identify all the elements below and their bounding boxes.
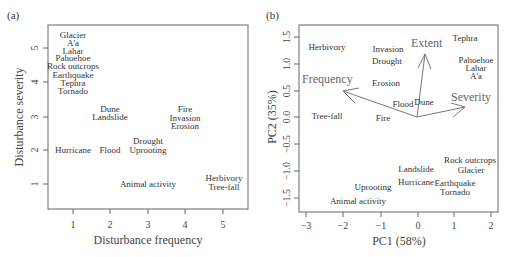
panel-a-xtick-5: 5	[221, 219, 226, 230]
label-fire: Fire	[376, 113, 391, 123]
label-uprooting: Uprooting	[355, 182, 392, 192]
panel-b-labels: Herbivory Invasion Drought Erosion Tree-…	[309, 33, 497, 206]
label-invasion: Invasion	[373, 44, 404, 54]
panel-a-ytick-4: 4	[29, 80, 40, 85]
label-glacier: Glacier	[458, 165, 484, 175]
panel-a-xtick-2: 2	[108, 219, 113, 230]
panel-b-tag: (b)	[266, 9, 279, 22]
panel-a-ytick-5: 5	[29, 46, 40, 51]
label-flood: Flood	[99, 145, 121, 155]
label-hurricane: Hurricane	[55, 145, 91, 155]
vector-label-extent: Extent	[411, 36, 443, 50]
label-animal-activity: Animal activity	[120, 179, 177, 189]
label-herbivory: Herbivory	[309, 42, 346, 52]
panel-b: (b) −1.5 −1.0 −0.5 0.0 0.5 1.0 1.5 PC2 (…	[265, 9, 498, 248]
panel-b-ytick-0.5: 0.5	[281, 85, 292, 98]
label-drought: Drought	[372, 56, 402, 66]
vector-extent-line	[417, 54, 425, 117]
vector-label-frequency: Frequency	[302, 72, 353, 86]
label-tree-fall: Tree-fall	[311, 111, 343, 121]
panel-b-x-ticks	[306, 212, 491, 217]
figure: (a) 1 2 3 4 5 Disturbance severity 1 2 3…	[0, 0, 511, 257]
label-tephra: Tephra	[453, 33, 478, 43]
label-landslide: Landslide	[398, 164, 434, 174]
label-tree-fall: Tree-fall	[208, 182, 240, 192]
label-erosion: Erosion	[171, 121, 199, 131]
panel-a-ytick-2: 2	[29, 148, 40, 153]
vector-severity-line	[417, 107, 465, 117]
panel-b-ytick-0.0: 0.0	[281, 111, 292, 124]
panel-b-xtick-m2: −2	[338, 220, 349, 231]
panel-b-xtick-m3: −3	[301, 220, 312, 231]
panel-a-x-ticks	[73, 209, 223, 214]
panel-b-ytick-1.5: 1.5	[281, 31, 292, 44]
label-aa: A'a	[470, 71, 482, 81]
panel-a-xtick-4: 4	[183, 219, 188, 230]
panel-b-ytick-m1.5: −1.5	[281, 189, 292, 207]
panel-b-xtick-1: 1	[452, 220, 457, 231]
panel-b-y-ticks	[294, 37, 299, 198]
panel-a: (a) 1 2 3 4 5 Disturbance severity 1 2 3…	[7, 9, 248, 247]
label-erosion: Erosion	[372, 78, 400, 88]
panel-a-labels: Glacier A'a Lahar Pahoehoe Rock outcrops…	[47, 30, 243, 192]
panel-b-y-axis-title: PC2 (35%)	[265, 90, 279, 144]
label-animal-activity: Animal activity	[330, 196, 387, 206]
panel-b-ytick-1.0: 1.0	[281, 58, 292, 71]
panel-a-xtick-3: 3	[146, 219, 151, 230]
label-landslide: Landslide	[92, 112, 128, 122]
panel-b-x-axis-title: PC1 (58%)	[372, 234, 426, 248]
label-hurricane: Hurricane	[398, 177, 434, 187]
label-dune: Dune	[414, 97, 434, 107]
panel-b-xtick-0: 0	[416, 220, 421, 231]
label-uprooting: Uprooting	[130, 145, 167, 155]
vector-label-severity: Severity	[451, 90, 491, 104]
panel-b-ytick-m1.0: −1.0	[281, 162, 292, 180]
panel-a-ytick-3: 3	[29, 115, 40, 120]
panel-a-x-axis-title: Disturbance frequency	[94, 233, 203, 247]
panel-b-ytick-m0.5: −0.5	[281, 135, 292, 153]
label-rock-outcrops: Rock outcrops	[444, 155, 497, 165]
label-flood: Flood	[392, 99, 414, 109]
label-tornado: Tornado	[440, 187, 470, 197]
panel-b-xtick-2: 2	[489, 220, 494, 231]
panel-a-ytick-1: 1	[29, 182, 40, 187]
panel-b-xtick-m1: −1	[376, 220, 387, 231]
panel-a-y-axis-title: Disturbance severity	[12, 68, 26, 167]
vector-severity-arrowhead-icon	[451, 103, 465, 117]
label-tornado: Tornado	[58, 86, 88, 96]
panel-a-tag: (a)	[7, 9, 20, 22]
panel-a-xtick-1: 1	[71, 219, 76, 230]
